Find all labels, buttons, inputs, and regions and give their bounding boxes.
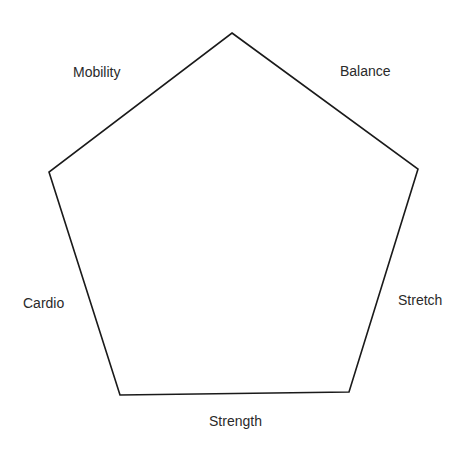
label-balance: Balance: [340, 64, 391, 78]
label-stretch: Stretch: [398, 293, 442, 307]
label-cardio: Cardio: [23, 296, 64, 310]
pentagon-shape: [0, 0, 462, 456]
pentagon-diagram: Mobility Balance Cardio Stretch Strength: [0, 0, 462, 456]
label-strength: Strength: [209, 414, 262, 428]
label-mobility: Mobility: [73, 65, 120, 79]
pentagon-outline: [49, 33, 418, 395]
